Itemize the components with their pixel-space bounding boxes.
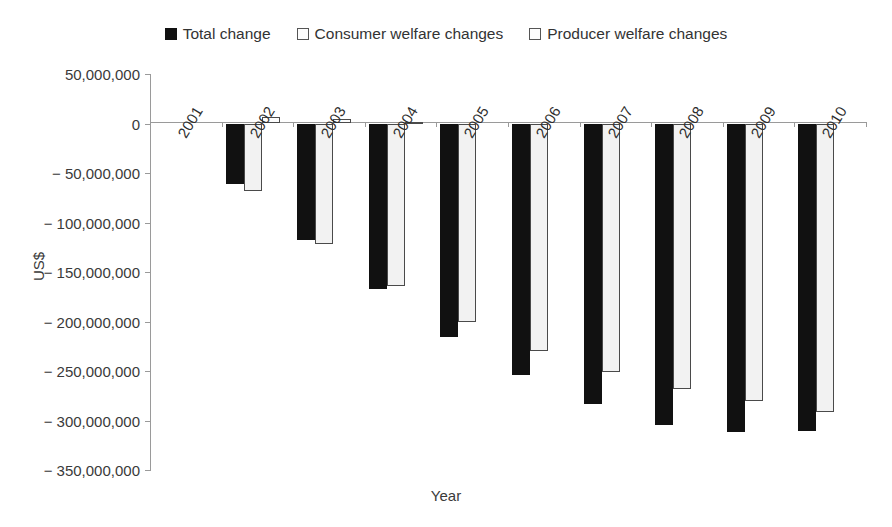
- bar-series-area: [0, 0, 892, 527]
- y-axis-tick-mark: [145, 173, 150, 174]
- x-axis-tick-mark: [651, 122, 652, 127]
- bar-total-change-2010: [798, 124, 816, 432]
- x-axis-tick-mark: [794, 122, 795, 127]
- bar-consumer-welfare-2010: [816, 124, 834, 412]
- x-axis-tick-mark: [365, 122, 366, 127]
- x-axis-tick-mark: [222, 122, 223, 127]
- bar-total-change-2002: [226, 124, 244, 184]
- x-axis-tick-mark: [866, 122, 867, 127]
- x-axis-tick-mark: [580, 122, 581, 127]
- y-axis-tick-mark: [145, 371, 150, 372]
- bar-total-change-2008: [655, 124, 673, 426]
- x-axis-tick-mark: [508, 122, 509, 127]
- bar-total-change-2007: [584, 124, 602, 404]
- bar-consumer-welfare-2005: [458, 124, 476, 323]
- bar-total-change-2009: [727, 124, 745, 433]
- bar-total-change-2005: [440, 124, 458, 338]
- bar-consumer-welfare-2008: [673, 124, 691, 389]
- x-axis-tick-mark: [723, 122, 724, 127]
- bar-consumer-welfare-2004: [387, 124, 405, 286]
- bar-consumer-welfare-2003: [315, 124, 333, 245]
- bar-consumer-welfare-2006: [530, 124, 548, 352]
- bar-consumer-welfare-2007: [602, 124, 620, 372]
- x-axis-tick-mark: [436, 122, 437, 127]
- y-axis-tick-mark: [145, 124, 150, 125]
- bar-total-change-2004: [369, 124, 387, 289]
- x-axis-tick-mark: [293, 122, 294, 127]
- bar-chart: US$ Year 50,000,0000− 50,000,000− 100,00…: [0, 0, 892, 527]
- y-axis-tick-mark: [145, 470, 150, 471]
- y-axis-tick-mark: [145, 223, 150, 224]
- y-axis-tick-mark: [145, 421, 150, 422]
- y-axis-tick-mark: [145, 74, 150, 75]
- bar-consumer-welfare-2009: [745, 124, 763, 401]
- y-axis-tick-mark: [145, 322, 150, 323]
- bar-total-change-2003: [297, 124, 315, 241]
- y-axis-tick-mark: [145, 272, 150, 273]
- bar-total-change-2006: [512, 124, 530, 375]
